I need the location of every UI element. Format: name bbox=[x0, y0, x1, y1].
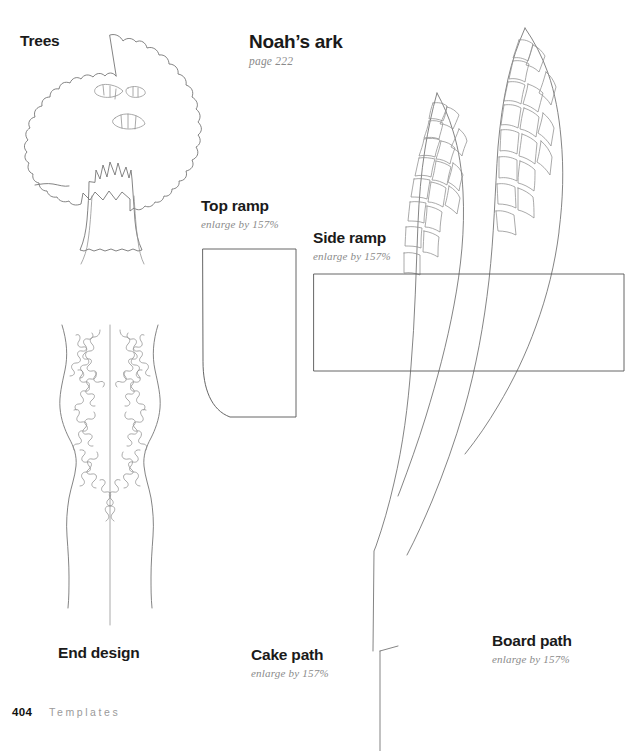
board-path-shape bbox=[407, 28, 563, 555]
label-side-ramp: Side ramp enlarge by 157% bbox=[313, 229, 391, 262]
label-trees-title: Trees bbox=[20, 32, 60, 50]
label-top-ramp: Top ramp enlarge by 157% bbox=[201, 197, 279, 230]
top-ramp-shape bbox=[203, 249, 296, 417]
page-footer: 404 Templates bbox=[12, 706, 120, 718]
label-cake-path-title: Cake path bbox=[251, 646, 329, 664]
label-board-path-enlarge: enlarge by 157% bbox=[492, 653, 572, 665]
footer-section-name: Templates bbox=[49, 706, 120, 718]
template-page: Trees Noah’s ark page 222 Top ramp enlar… bbox=[0, 0, 637, 751]
label-cake-path: Cake path enlarge by 157% bbox=[251, 646, 329, 679]
footer-page-number: 404 bbox=[12, 706, 32, 718]
label-top-ramp-title: Top ramp bbox=[201, 197, 279, 215]
label-board-path-title: Board path bbox=[492, 632, 572, 650]
side-ramp-shape bbox=[314, 274, 624, 371]
end-design-template bbox=[60, 325, 160, 625]
page-title-block: Noah’s ark page 222 bbox=[249, 31, 342, 67]
label-top-ramp-enlarge: enlarge by 157% bbox=[201, 218, 279, 230]
label-end-design: End design bbox=[58, 644, 140, 662]
cake-path-shape bbox=[373, 93, 467, 751]
page-title: Noah’s ark bbox=[249, 31, 342, 53]
label-side-ramp-title: Side ramp bbox=[313, 229, 391, 247]
tree-template bbox=[24, 34, 201, 264]
label-cake-path-enlarge: enlarge by 157% bbox=[251, 667, 329, 679]
label-end-design-title: End design bbox=[58, 644, 140, 662]
page-reference: page 222 bbox=[249, 55, 342, 67]
label-side-ramp-enlarge: enlarge by 157% bbox=[313, 250, 391, 262]
label-trees: Trees bbox=[20, 32, 60, 50]
label-board-path: Board path enlarge by 157% bbox=[492, 632, 572, 665]
